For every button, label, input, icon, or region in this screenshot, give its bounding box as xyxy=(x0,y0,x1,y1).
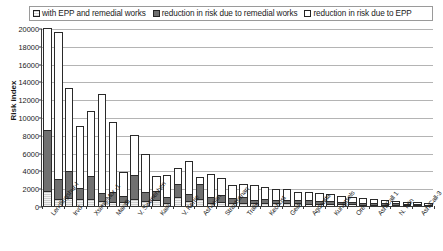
stacked-bar[interactable] xyxy=(98,94,106,206)
x-tick-mark xyxy=(434,206,435,209)
y-axis-title: Risk index xyxy=(9,66,18,136)
x-tick-mark xyxy=(42,206,43,209)
stacked-bar[interactable] xyxy=(76,126,84,206)
bar-segment-2 xyxy=(76,126,84,188)
x-tick-mark xyxy=(173,206,174,209)
x-tick-mark xyxy=(412,206,413,209)
bar-segment-2 xyxy=(141,154,149,193)
bar-segment-0 xyxy=(217,202,225,206)
x-tick-mark xyxy=(282,206,283,209)
chart-legend: with EPP and remedial works reduction in… xyxy=(29,6,433,21)
x-tick-mark xyxy=(303,206,304,209)
filled-square-icon xyxy=(153,10,160,17)
bar-segment-2 xyxy=(174,168,182,185)
bar-segment-0 xyxy=(261,203,269,206)
x-tick-mark xyxy=(151,206,152,209)
bar-segment-0 xyxy=(130,199,138,206)
bar-segment-2 xyxy=(119,172,127,197)
y-tick-label: 6000 xyxy=(23,150,39,157)
bar-segment-0 xyxy=(348,204,356,206)
stacked-bar[interactable] xyxy=(87,111,95,206)
bar-segment-1 xyxy=(43,130,51,192)
bar-segment-2 xyxy=(185,161,193,195)
x-axis-labels: Lendlingshur-IIrvdXsimg/Mor -1MaralliV. … xyxy=(0,211,439,251)
legend-label: reduction in risk due to EPP xyxy=(313,10,411,18)
hatched-square-icon xyxy=(33,10,40,17)
empty-square-icon xyxy=(304,10,311,17)
stacked-bar[interactable] xyxy=(174,168,182,206)
x-tick-mark xyxy=(107,206,108,209)
y-tick-label: 0 xyxy=(35,204,39,211)
x-tick-mark xyxy=(390,206,391,209)
x-tick-mark xyxy=(194,206,195,209)
x-tick-mark xyxy=(216,206,217,209)
bar-segment-2 xyxy=(54,32,62,180)
bar-segment-2 xyxy=(250,185,258,200)
bar-segment-0 xyxy=(239,203,247,206)
bar-segment-0 xyxy=(87,199,95,206)
bar-segment-2 xyxy=(65,88,73,172)
y-tick-label: 10000 xyxy=(18,115,39,122)
bar-segment-2 xyxy=(43,28,51,130)
stacked-bar[interactable] xyxy=(305,192,313,206)
stacked-bar[interactable] xyxy=(261,187,269,206)
bar-segment-0 xyxy=(174,197,182,206)
bar-segment-0 xyxy=(413,205,421,206)
y-tick-label: 14000 xyxy=(18,79,39,86)
stacked-bar[interactable] xyxy=(43,28,51,206)
bar-segment-0 xyxy=(43,191,51,206)
x-tick-mark xyxy=(369,206,370,209)
y-tick-label: 20000 xyxy=(18,26,39,33)
legend-label: with EPP and remedial works xyxy=(42,10,146,18)
x-tick-mark xyxy=(64,206,65,209)
bar-segment-0 xyxy=(305,204,313,206)
bar-segment-0 xyxy=(283,203,291,206)
x-tick-mark xyxy=(347,206,348,209)
x-tick-mark xyxy=(129,206,130,209)
bar-segment-2 xyxy=(98,94,106,194)
stacked-bar[interactable] xyxy=(163,175,171,206)
x-tick-mark xyxy=(86,206,87,209)
stacked-bar[interactable] xyxy=(54,32,62,206)
y-tick-label: 12000 xyxy=(18,97,39,104)
y-tick-label: 16000 xyxy=(18,61,39,68)
legend-item-reduction-epp: reduction in risk due to EPP xyxy=(304,10,411,18)
x-tick-mark xyxy=(238,206,239,209)
bar-segment-2 xyxy=(130,135,138,176)
x-tick-mark xyxy=(325,206,326,209)
bar-segment-0 xyxy=(109,202,117,206)
legend-item-with-epp-and-remedial-works: with EPP and remedial works xyxy=(33,10,146,18)
stacked-bar[interactable] xyxy=(130,135,138,206)
bar-segment-0 xyxy=(326,204,334,206)
bar-segment-1 xyxy=(87,176,95,200)
bar-series-container xyxy=(42,29,433,206)
chart-plot-area: 0200040006000800010000120001400016000180… xyxy=(41,29,433,207)
x-tick-mark xyxy=(260,206,261,209)
y-tick-label: 4000 xyxy=(23,168,39,175)
bar-segment-2 xyxy=(87,111,95,177)
bar-segment-2 xyxy=(217,178,225,196)
legend-label: reduction in risk due to remedial works xyxy=(162,10,298,18)
bar-segment-1 xyxy=(174,184,182,198)
bar-segment-0 xyxy=(370,205,378,206)
bar-segment-1 xyxy=(130,175,138,200)
stacked-bar[interactable] xyxy=(413,202,421,206)
y-tick-label: 8000 xyxy=(23,132,39,139)
y-tick-label: 2000 xyxy=(23,186,39,193)
y-tick-label: 18000 xyxy=(18,43,39,50)
bar-segment-0 xyxy=(392,205,400,206)
stacked-bar[interactable] xyxy=(370,199,378,206)
legend-item-reduction-remedial-works: reduction in risk due to remedial works xyxy=(153,10,298,18)
